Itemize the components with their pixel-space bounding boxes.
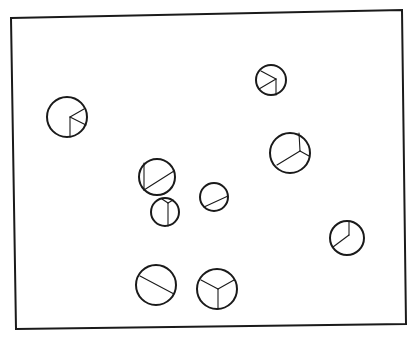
circle-group bbox=[47, 65, 364, 309]
circle-outline bbox=[330, 221, 364, 255]
circle-2 bbox=[256, 65, 286, 95]
circle-8 bbox=[136, 265, 176, 305]
circle-7 bbox=[330, 221, 364, 255]
circle-9 bbox=[197, 269, 237, 309]
circle-4 bbox=[139, 159, 175, 195]
circle-diagram bbox=[0, 0, 414, 340]
circle-3 bbox=[270, 133, 310, 173]
circle-1 bbox=[47, 97, 87, 137]
circle-outline bbox=[151, 198, 179, 226]
circle-6 bbox=[200, 183, 228, 211]
diagram-canvas bbox=[0, 0, 414, 340]
circle-5 bbox=[151, 198, 179, 226]
circle-outline bbox=[256, 65, 286, 95]
circle-outline bbox=[47, 97, 87, 137]
